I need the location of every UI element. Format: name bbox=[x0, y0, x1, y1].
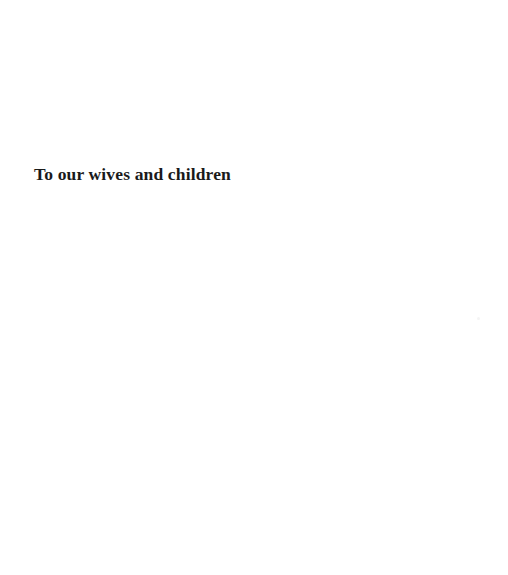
document-page: To our wives and children bbox=[0, 0, 508, 575]
scan-artifact-speck bbox=[477, 317, 480, 320]
dedication-text: To our wives and children bbox=[34, 163, 231, 185]
